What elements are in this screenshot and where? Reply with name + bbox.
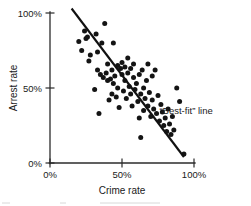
data-point	[154, 111, 159, 116]
data-point	[115, 86, 120, 91]
y-axis-title: Arrest rate	[8, 64, 19, 111]
y-tick-label-50: 50%	[23, 83, 43, 94]
best-fit-line-label: “Best-fit” line	[159, 105, 212, 116]
y-tick-label-0: 0%	[28, 158, 42, 169]
data-point	[124, 96, 129, 101]
data-point	[150, 74, 155, 79]
data-point	[111, 41, 116, 46]
x-tick-label-50: 50%	[112, 169, 132, 180]
data-point	[114, 95, 119, 100]
data-point	[92, 87, 97, 92]
data-point	[177, 99, 182, 104]
y-axis-tick-labels: 100% 50% 0%	[18, 8, 43, 169]
data-point	[150, 98, 155, 103]
data-point	[105, 62, 110, 67]
data-point	[94, 32, 99, 37]
data-point	[107, 98, 112, 103]
data-point	[120, 60, 125, 65]
data-point	[76, 39, 81, 44]
chart-canvas: 100% 50% 0% 0% 50% 100% Crime rate Arres…	[0, 0, 251, 206]
data-point	[174, 86, 179, 91]
data-point	[163, 116, 168, 121]
x-tick-label-100: 100%	[182, 169, 207, 180]
data-point	[121, 89, 126, 94]
data-point	[108, 77, 113, 82]
data-point	[104, 71, 109, 76]
data-point	[137, 116, 142, 121]
data-point	[112, 74, 117, 79]
data-point	[145, 62, 150, 67]
data-point	[125, 71, 130, 76]
data-point	[101, 75, 106, 80]
x-axis-title: Crime rate	[99, 185, 146, 196]
data-point	[95, 50, 100, 55]
x-tick-label-0: 0%	[43, 169, 57, 180]
data-point	[147, 90, 152, 95]
data-point	[96, 111, 101, 116]
data-point	[141, 86, 146, 91]
data-point	[131, 62, 136, 67]
data-point	[111, 81, 116, 86]
data-point	[95, 68, 100, 73]
data-point	[122, 65, 127, 70]
data-point	[144, 78, 149, 83]
y-tick-label-100: 100%	[18, 8, 43, 19]
data-point	[85, 35, 90, 40]
data-point	[134, 81, 139, 86]
data-point	[79, 48, 84, 53]
data-point	[109, 92, 114, 97]
data-point	[109, 68, 114, 73]
data-point	[86, 59, 91, 64]
data-point	[88, 53, 93, 58]
data-point	[167, 122, 172, 127]
data-point	[131, 75, 136, 80]
data-point	[117, 105, 122, 110]
best-fit-line	[72, 9, 184, 158]
plot-axes	[46, 12, 196, 168]
scatter-plot-figure: 100% 50% 0% 0% 50% 100% Crime rate Arres…	[0, 0, 251, 206]
data-point	[171, 128, 176, 133]
data-point	[102, 21, 107, 26]
data-point	[138, 92, 143, 97]
data-point	[141, 108, 146, 113]
data-point	[130, 104, 135, 109]
data-point	[151, 107, 156, 112]
data-point	[140, 68, 145, 73]
x-axis-tick-labels: 0% 50% 100%	[43, 169, 207, 180]
data-point	[138, 135, 143, 140]
data-point	[156, 93, 161, 98]
data-point	[153, 68, 158, 73]
data-point	[137, 72, 142, 77]
data-point	[125, 56, 130, 61]
data-point	[143, 96, 148, 101]
data-point	[128, 92, 133, 97]
data-point	[128, 66, 133, 71]
